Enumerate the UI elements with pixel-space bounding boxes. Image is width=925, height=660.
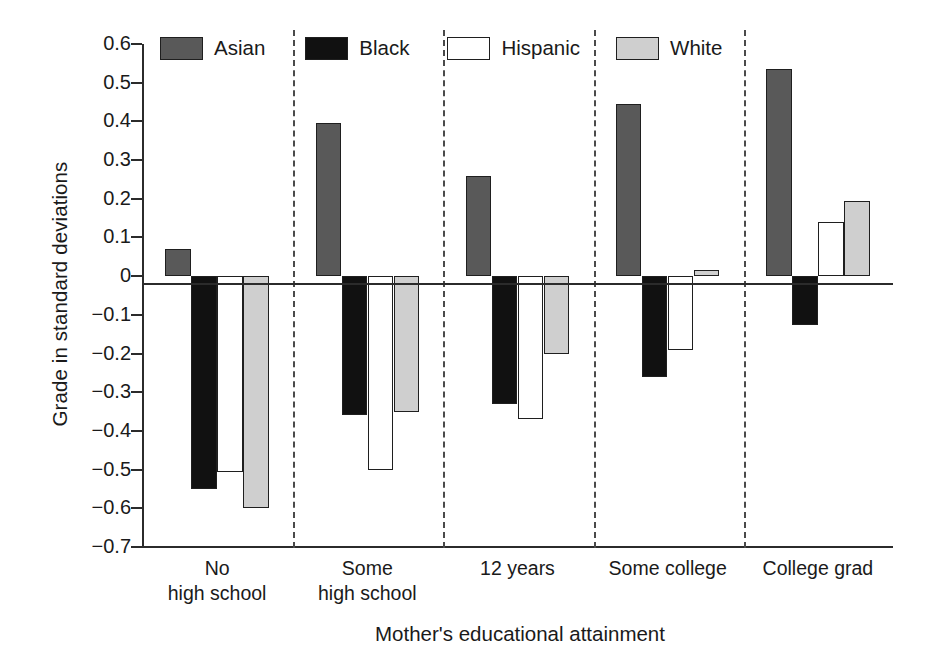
chart-legend: AsianBlackHispanicWhite: [160, 33, 722, 63]
y-axis-tick-label: 0.1: [71, 226, 131, 246]
bar-white-2: [394, 276, 420, 411]
bar-hispanic-5: [818, 222, 844, 276]
y-axis-tick: [131, 507, 142, 509]
y-axis-tick: [131, 198, 142, 200]
bar-chart-figure: Grade in standard deviations 0.60.50.40.…: [0, 0, 925, 660]
y-axis-tick-label: −0.1: [71, 304, 131, 324]
category-label-line: No: [142, 556, 292, 581]
bar-white-4: [694, 270, 720, 276]
bar-hispanic-3: [518, 276, 544, 419]
legend-item-hispanic: Hispanic: [447, 36, 616, 60]
legend-label: Asian: [214, 36, 265, 60]
y-axis-tick: [131, 82, 142, 84]
category-label-1: Nohigh school: [142, 556, 292, 606]
y-axis-tick-label: 0.3: [71, 149, 131, 169]
legend-label: White: [670, 36, 722, 60]
category-label-5: College grad: [743, 556, 893, 581]
category-label-line: Some college: [593, 556, 743, 581]
y-axis-tick: [131, 430, 142, 432]
category-label-line: College grad: [743, 556, 893, 581]
legend-item-white: White: [616, 36, 722, 60]
legend-swatch-black: [305, 37, 348, 60]
y-axis-tick: [131, 159, 142, 161]
bar-asian-5: [766, 69, 792, 276]
legend-item-asian: Asian: [160, 36, 305, 60]
x-axis-category-labels: Nohigh schoolSomehigh school12 yearsSome…: [142, 556, 893, 616]
category-label-line: high school: [142, 581, 292, 606]
y-axis-tick: [131, 469, 142, 471]
y-axis-tick-label: −0.4: [71, 420, 131, 440]
category-label-4: Some college: [593, 556, 743, 581]
bar-hispanic-1: [217, 276, 243, 471]
y-axis-tick: [131, 391, 142, 393]
bar-black-2: [342, 276, 368, 415]
bar-white-3: [544, 276, 570, 353]
y-axis-tick-label: −0.6: [71, 497, 131, 517]
y-axis-tick: [131, 353, 142, 355]
y-axis-tick: [131, 546, 142, 548]
y-axis-tick: [131, 275, 142, 277]
legend-swatch-asian: [160, 37, 203, 60]
bar-asian-4: [616, 104, 642, 276]
y-axis-tick-label: 0.5: [71, 72, 131, 92]
bar-hispanic-2: [368, 276, 394, 469]
plot-area: [142, 30, 893, 548]
legend-item-black: Black: [305, 36, 447, 60]
category-label-line: 12 years: [442, 556, 592, 581]
y-axis-tick: [131, 314, 142, 316]
bar-asian-3: [466, 176, 492, 277]
bar-hispanic-4: [668, 276, 694, 350]
bar-asian-2: [316, 123, 342, 276]
bar-black-3: [492, 276, 518, 404]
bar-asian-1: [165, 249, 191, 276]
y-axis-tick: [131, 120, 142, 122]
y-axis-tick-label: −0.3: [71, 381, 131, 401]
y-axis-tick-label: 0.2: [71, 188, 131, 208]
y-axis-tick-label: −0.7: [71, 536, 131, 556]
y-axis-tick-label: −0.2: [71, 343, 131, 363]
legend-label: Black: [359, 36, 409, 60]
y-axis-tick-label: 0.6: [71, 33, 131, 53]
bar-black-4: [642, 276, 668, 377]
y-axis-tick: [131, 43, 142, 45]
category-label-2: Somehigh school: [292, 556, 442, 606]
legend-swatch-hispanic: [447, 37, 490, 60]
bar-black-1: [191, 276, 217, 489]
y-axis-tick-label: 0: [71, 265, 131, 285]
category-label-3: 12 years: [442, 556, 592, 581]
y-axis-title: Grade in standard deviations: [48, 84, 72, 504]
y-axis-tick-label: −0.5: [71, 459, 131, 479]
x-axis-title: Mother's educational attainment: [140, 622, 900, 646]
bar-white-1: [243, 276, 269, 508]
bar-white-5: [844, 201, 870, 276]
y-axis-tick-label: 0.4: [71, 110, 131, 130]
category-label-line: Some: [292, 556, 442, 581]
zero-baseline: [142, 283, 893, 285]
legend-swatch-white: [616, 37, 659, 60]
category-label-line: high school: [292, 581, 442, 606]
y-axis-tick: [131, 236, 142, 238]
legend-label: Hispanic: [501, 36, 580, 60]
